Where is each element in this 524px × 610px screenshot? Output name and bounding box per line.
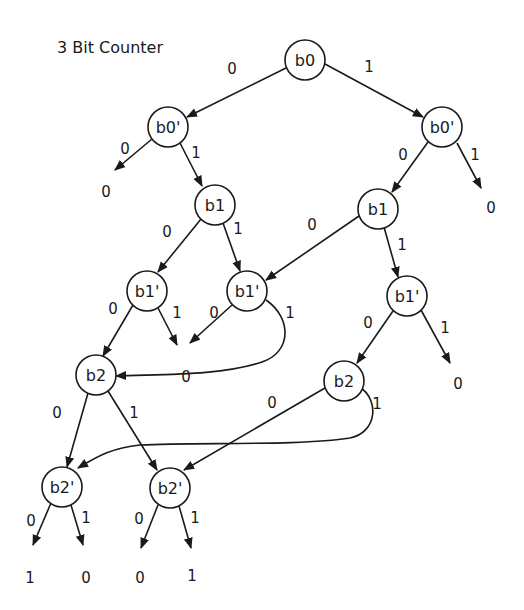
node-label: b1' bbox=[395, 287, 420, 306]
node-label: b1 bbox=[368, 200, 388, 219]
node-b1p_lr: b1' bbox=[227, 271, 267, 311]
edge-label: 1 bbox=[364, 58, 374, 76]
leaf-value: 0 bbox=[453, 375, 463, 393]
edge-label: 0 bbox=[267, 394, 277, 412]
edge-label: 0 bbox=[398, 146, 408, 164]
edge-b1p-lr-to-b2-left bbox=[116, 300, 285, 376]
node-label: b0 bbox=[295, 51, 315, 70]
edge-label: 1 bbox=[190, 509, 200, 527]
node-b0: b0 bbox=[285, 40, 325, 80]
node-label: b2' bbox=[50, 478, 75, 497]
node-b2_r: b2 bbox=[324, 361, 364, 401]
node-b1_r: b1 bbox=[358, 189, 398, 229]
node-b2p_l: b2' bbox=[42, 467, 82, 507]
node-b0p_l: b0' bbox=[148, 107, 188, 147]
leaf-value: 1 bbox=[25, 569, 35, 587]
edge-label: 0 bbox=[52, 404, 62, 422]
edge-label: 0 bbox=[363, 314, 373, 332]
node-b0p_r: b0' bbox=[422, 107, 462, 147]
node-b1p_ll: b1' bbox=[127, 271, 167, 311]
edge-label: 1 bbox=[191, 144, 201, 162]
edge-label: 1 bbox=[397, 236, 407, 254]
leaf-value: 0 bbox=[101, 183, 111, 201]
edge-label: 0 bbox=[108, 300, 118, 318]
leaf-value: 0 bbox=[486, 199, 496, 217]
node-b2p_r: b2' bbox=[150, 468, 190, 508]
diagram-canvas: b0b0'b0'b1b1b1'b1'b1'b2b2b2'b2' 01010101… bbox=[0, 0, 524, 610]
edge-b1-right-to-b1p-r bbox=[384, 227, 398, 277]
edge-label: 1 bbox=[285, 304, 295, 322]
node-b2_l: b2 bbox=[76, 355, 116, 395]
edge-b2-left-to-b2p-left bbox=[67, 393, 88, 467]
node-label: b2 bbox=[334, 372, 354, 391]
node-b1p_r: b1' bbox=[387, 276, 427, 316]
edge-label: 1 bbox=[233, 220, 243, 238]
node-label: b2 bbox=[86, 366, 106, 385]
node-label: b2' bbox=[158, 479, 183, 498]
three-bit-counter-diagram: 3 Bit Counter bbox=[0, 0, 524, 610]
leaf-value: 0 bbox=[135, 569, 145, 587]
nodes: b0b0'b0'b1b1b1'b1'b1'b2b2b2'b2' bbox=[42, 40, 462, 508]
node-label: b1 bbox=[205, 196, 225, 215]
edge-label: 0 bbox=[227, 60, 237, 78]
edge-label: 0 bbox=[307, 216, 317, 234]
edge-label: 1 bbox=[470, 146, 480, 164]
leaf-value: 0 bbox=[181, 368, 191, 386]
edge-label: 1 bbox=[81, 509, 91, 527]
node-b1_l: b1 bbox=[195, 185, 235, 225]
leaf-value: 0 bbox=[81, 569, 91, 587]
edge-label: 1 bbox=[129, 404, 139, 422]
node-label: b1' bbox=[235, 282, 260, 301]
edge-label: 0 bbox=[120, 140, 130, 158]
edge-label: 0 bbox=[162, 223, 172, 241]
edge-label: 0 bbox=[134, 510, 144, 528]
edge-label: 0 bbox=[209, 304, 219, 322]
edge-b2-left-to-b2p-right bbox=[108, 391, 157, 470]
edge-label: 1 bbox=[372, 395, 382, 413]
edge-label: 1 bbox=[440, 319, 450, 337]
edge-b2p-right-to-leaf-1 bbox=[179, 506, 191, 548]
leaf-value: 1 bbox=[187, 567, 197, 585]
edge-label: 1 bbox=[172, 304, 182, 322]
node-label: b1' bbox=[135, 282, 160, 301]
edge-b0-to-b0p-right bbox=[325, 64, 423, 117]
node-label: b0' bbox=[430, 118, 455, 137]
edge-b2-right-to-b2p-left bbox=[78, 389, 373, 468]
edge-label: 0 bbox=[26, 512, 36, 530]
node-label: b0' bbox=[156, 118, 181, 137]
edge-b2-right-to-b2p-right bbox=[184, 388, 325, 470]
